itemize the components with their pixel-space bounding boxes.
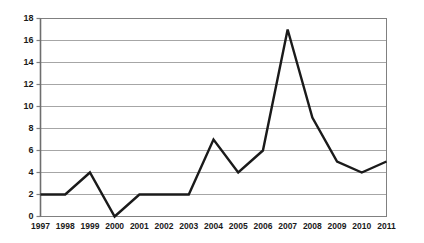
x-axis-tick-label: 2007 xyxy=(278,221,297,231)
x-axis-tick-label: 1997 xyxy=(31,221,50,231)
x-axis-tick-label: 2000 xyxy=(105,221,124,231)
x-axis-tick-label: 2009 xyxy=(328,221,347,231)
y-axis-tick-label: 2 xyxy=(28,189,33,199)
y-axis-tick-label: 8 xyxy=(28,123,33,133)
y-axis-tick-label: 10 xyxy=(23,101,33,111)
x-axis-tick-label: 2010 xyxy=(352,221,371,231)
x-axis-tick-label: 2001 xyxy=(130,221,149,231)
line-chart: 024681012141618 199719981999200020012002… xyxy=(0,0,424,243)
x-axis-tick-label: 2002 xyxy=(155,221,174,231)
chart-canvas: 024681012141618 199719981999200020012002… xyxy=(0,0,424,243)
y-axis-tick-label: 6 xyxy=(28,145,33,155)
y-axis-tick-label: 16 xyxy=(23,35,33,45)
x-axis-tick-label: 2008 xyxy=(303,221,322,231)
y-axis-tick-label: 12 xyxy=(23,79,33,89)
x-axis-tick-label: 2003 xyxy=(179,221,198,231)
x-axis-tick-label: 2006 xyxy=(253,221,272,231)
y-axis-tick-label: 18 xyxy=(23,13,33,23)
plot-area-background xyxy=(41,19,387,217)
y-axis-tick-label: 14 xyxy=(23,57,33,67)
x-axis-tick-labels: 1997199819992000200120022003200420052006… xyxy=(31,221,396,231)
x-axis-tick-label: 2004 xyxy=(204,221,223,231)
x-axis-tick-label: 2005 xyxy=(229,221,248,231)
x-axis-tick-label: 1999 xyxy=(80,221,99,231)
y-axis-tick-label: 0 xyxy=(28,211,33,221)
x-axis-tick-label: 2011 xyxy=(377,221,396,231)
x-axis-tick-label: 1998 xyxy=(56,221,75,231)
y-axis-tick-label: 4 xyxy=(28,167,33,177)
